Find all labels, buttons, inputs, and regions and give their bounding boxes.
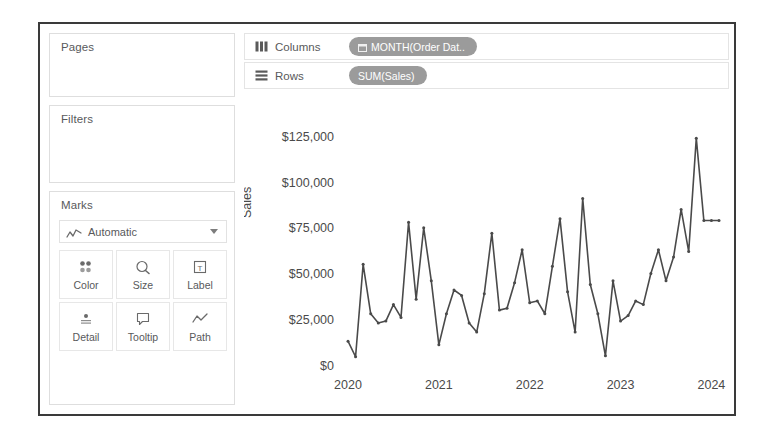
calendar-icon — [358, 42, 367, 51]
chart-pane[interactable]: Sales $0$25,000$50,000$75,000$100,000$12… — [244, 96, 729, 405]
rows-pill-sum-sales[interactable]: SUM(Sales) — [349, 66, 427, 85]
x-tick-label: 2020 — [334, 378, 362, 392]
data-point — [710, 219, 713, 222]
sales-line-path — [348, 138, 719, 357]
columns-shelf-icon — [254, 41, 268, 53]
chevron-down-icon[interactable] — [210, 229, 218, 234]
mark-type-dropdown[interactable]: Automatic — [59, 220, 227, 243]
x-tick-label: 2023 — [607, 378, 635, 392]
data-point — [574, 331, 577, 334]
x-tick-label: 2022 — [516, 378, 544, 392]
data-point — [695, 137, 698, 140]
data-point — [521, 248, 524, 251]
left-sidebar: Pages Filters Marks Automatic — [49, 33, 235, 405]
rows-shelf-icon — [254, 70, 268, 82]
size-icon — [134, 258, 152, 276]
tableau-worksheet-screenshot: Pages Filters Marks Automatic — [0, 0, 768, 441]
data-point — [612, 279, 615, 282]
data-point — [453, 288, 456, 291]
marks-size-label: Size — [133, 279, 153, 291]
data-point — [468, 321, 471, 324]
data-point — [513, 281, 516, 284]
label-text-icon: T — [191, 258, 209, 276]
columns-shelf-label: Columns — [275, 41, 349, 53]
data-point — [589, 283, 592, 286]
marks-tooltip-label: Tooltip — [128, 331, 158, 343]
filters-card-title: Filters — [50, 106, 234, 125]
data-point — [528, 301, 531, 304]
columns-pill-month-order-date[interactable]: MONTH(Order Dat.. — [349, 37, 477, 56]
marks-label-button[interactable]: T Label — [173, 250, 227, 299]
y-axis-title: Sales — [244, 187, 254, 218]
x-tick-label: 2021 — [425, 378, 453, 392]
data-point — [665, 279, 668, 282]
sales-line-chart[interactable]: $0$25,000$50,000$75,000$100,000$125,0002… — [244, 96, 729, 405]
marks-tooltip-button[interactable]: Tooltip — [116, 302, 170, 351]
marks-card-title: Marks — [50, 192, 234, 211]
marks-color-button[interactable]: Color — [59, 250, 113, 299]
marks-label-label: Label — [187, 279, 213, 291]
tooltip-icon — [134, 310, 152, 328]
sales-data-points — [347, 137, 721, 359]
data-point — [596, 312, 599, 315]
data-point — [384, 320, 387, 323]
data-point — [377, 321, 380, 324]
color-palette-icon — [77, 258, 95, 276]
marks-size-button[interactable]: Size — [116, 250, 170, 299]
data-point — [422, 226, 425, 229]
data-point — [634, 299, 637, 302]
y-tick-label: $125,000 — [282, 130, 334, 144]
y-tick-label: $100,000 — [282, 176, 334, 190]
data-point — [702, 219, 705, 222]
y-tick-label: $25,000 — [289, 313, 334, 327]
data-point — [392, 303, 395, 306]
y-tick-label: $75,000 — [289, 221, 334, 235]
x-tick-label: 2024 — [698, 378, 726, 392]
data-point — [551, 265, 554, 268]
data-point — [498, 309, 501, 312]
svg-text:T: T — [198, 264, 203, 273]
marks-detail-label: Detail — [73, 331, 100, 343]
pages-card[interactable]: Pages — [49, 33, 235, 97]
data-point — [362, 263, 365, 266]
rows-pill-text: SUM(Sales) — [358, 70, 415, 82]
columns-pill-text: MONTH(Order Dat.. — [371, 41, 465, 53]
data-point — [657, 248, 660, 251]
data-point — [354, 355, 357, 358]
data-point — [619, 320, 622, 323]
data-point — [347, 340, 350, 343]
data-point — [672, 256, 675, 259]
data-point — [566, 290, 569, 293]
data-point — [642, 303, 645, 306]
data-point — [437, 343, 440, 346]
window-frame: Pages Filters Marks Automatic — [38, 22, 736, 416]
marks-buttons-grid: Color Size — [59, 250, 227, 351]
data-point — [407, 221, 410, 224]
y-axis-ticks: $0$25,000$50,000$75,000$100,000$125,000 — [282, 130, 334, 373]
data-point — [581, 197, 584, 200]
marks-detail-button[interactable]: Detail — [59, 302, 113, 351]
filters-card[interactable]: Filters — [49, 105, 235, 183]
marks-color-label: Color — [73, 279, 98, 291]
data-point — [460, 294, 463, 297]
rows-shelf[interactable]: Rows SUM(Sales) — [244, 62, 729, 89]
marks-path-button[interactable]: Path — [173, 302, 227, 351]
data-point — [430, 279, 433, 282]
y-tick-label: $50,000 — [289, 267, 334, 281]
detail-icon — [77, 310, 95, 328]
columns-shelf[interactable]: Columns MONTH(Order Dat.. — [244, 33, 729, 60]
path-line-icon — [191, 310, 209, 328]
data-point — [687, 250, 690, 253]
data-point — [415, 298, 418, 301]
data-point — [506, 307, 509, 310]
data-point — [536, 299, 539, 302]
data-point — [604, 354, 607, 357]
data-point — [475, 331, 478, 334]
rows-shelf-label: Rows — [275, 70, 349, 82]
data-point — [559, 217, 562, 220]
y-tick-label: $0 — [320, 359, 334, 373]
data-point — [543, 312, 546, 315]
data-point — [483, 292, 486, 295]
line-chart-icon — [66, 226, 82, 238]
x-axis-ticks: 20202021202220232024 — [334, 378, 725, 392]
